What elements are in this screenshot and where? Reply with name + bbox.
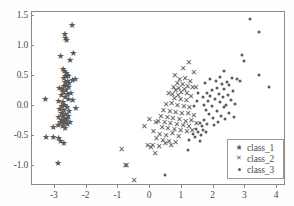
data-point-class_3 bbox=[199, 139, 202, 142]
data-point-class_1: ★ bbox=[66, 56, 74, 65]
data-point-class_3 bbox=[201, 96, 204, 99]
x-tick-mark bbox=[276, 185, 277, 188]
dot-marker-icon bbox=[231, 168, 247, 171]
y-tick-label: 1.0 bbox=[17, 40, 28, 50]
data-point-class_3 bbox=[209, 78, 212, 81]
data-point-class_3 bbox=[257, 31, 260, 34]
y-tick-label: -1.0 bbox=[14, 160, 28, 170]
data-point-class_3 bbox=[215, 109, 218, 112]
data-point-class_3 bbox=[203, 103, 206, 106]
data-point-class_3 bbox=[218, 76, 221, 79]
data-point-class_3 bbox=[231, 77, 234, 80]
scatter-plot-figure: ★★★★★★★★★★★★★★★★★★★★★★★★★★★★★★★★★★★★★★★★… bbox=[0, 0, 294, 206]
data-point-class_3 bbox=[221, 96, 224, 99]
data-point-class_3 bbox=[232, 115, 235, 118]
star-marker-icon: ★ bbox=[231, 144, 247, 152]
legend-label: class_3 bbox=[247, 165, 274, 175]
data-point-class_3 bbox=[208, 95, 211, 98]
data-point-class_3 bbox=[224, 118, 227, 121]
y-tick-label: 0.5 bbox=[17, 70, 28, 80]
data-point-class_1: ★ bbox=[54, 158, 62, 167]
data-point-class_3 bbox=[200, 125, 203, 128]
legend-item-class_3: class_3 bbox=[231, 164, 280, 175]
data-point-class_3 bbox=[203, 119, 206, 122]
data-point-class_3 bbox=[238, 79, 241, 82]
data-point-class_3 bbox=[240, 54, 243, 57]
data-point-class_3 bbox=[204, 131, 207, 134]
x-marker-icon: ✕ bbox=[231, 155, 247, 162]
data-point-class_3 bbox=[248, 18, 251, 21]
x-tick-mark bbox=[149, 185, 150, 188]
data-point-class_3 bbox=[164, 174, 167, 177]
x-tick-label: -3 bbox=[50, 190, 58, 200]
data-point-class_1: ★ bbox=[60, 139, 68, 148]
y-tick-label: -0.5 bbox=[14, 130, 28, 140]
data-point-class_3 bbox=[196, 100, 199, 103]
data-point-class_2: ✕ bbox=[131, 177, 138, 185]
dot-glyph bbox=[238, 168, 241, 171]
x-tick-mark bbox=[181, 185, 182, 188]
data-point-class_3 bbox=[206, 122, 209, 125]
x-tick-label: -1 bbox=[113, 190, 121, 200]
data-point-class_3 bbox=[211, 116, 214, 119]
x-tick-label: 3 bbox=[242, 190, 247, 200]
data-point-class_3 bbox=[243, 60, 246, 63]
data-point-class_3 bbox=[197, 91, 200, 94]
data-point-class_3 bbox=[216, 86, 219, 89]
x-tick-label: 0 bbox=[147, 190, 152, 200]
x-tick-label: 1 bbox=[178, 190, 183, 200]
legend-item-class_2: ✕class_2 bbox=[231, 153, 280, 164]
data-point-class_3 bbox=[217, 92, 220, 95]
x-tick-label: 2 bbox=[210, 190, 215, 200]
x-tick-label: 4 bbox=[274, 190, 279, 200]
x-tick-mark bbox=[213, 185, 214, 188]
data-point-class_3 bbox=[188, 138, 191, 141]
data-point-class_3 bbox=[192, 104, 195, 107]
data-point-class_2: ✕ bbox=[152, 150, 159, 158]
x-tick-mark bbox=[244, 185, 245, 188]
x-tick-label: -2 bbox=[82, 190, 90, 200]
data-point-class_3 bbox=[222, 106, 225, 109]
data-point-class_3 bbox=[213, 124, 216, 127]
data-point-class_3 bbox=[226, 94, 229, 97]
data-point-class_3 bbox=[214, 79, 217, 82]
data-point-class_1: ★ bbox=[61, 124, 69, 133]
data-point-class_3 bbox=[211, 89, 214, 92]
data-point-class_1: ★ bbox=[41, 94, 49, 103]
data-point-class_3 bbox=[258, 73, 261, 76]
data-point-class_3 bbox=[223, 88, 226, 91]
data-point-class_3 bbox=[204, 82, 207, 85]
data-point-class_3 bbox=[198, 121, 201, 124]
data-point-class_3 bbox=[208, 113, 211, 116]
data-point-class_3 bbox=[225, 103, 228, 106]
data-point-class_3 bbox=[210, 104, 213, 107]
x-tick-mark bbox=[86, 185, 87, 188]
data-point-class_1: ★ bbox=[57, 51, 65, 60]
x-tick-mark bbox=[117, 185, 118, 188]
y-tick-label: 0.0 bbox=[17, 100, 28, 110]
data-point-class_3 bbox=[218, 101, 221, 104]
data-point-class_3 bbox=[213, 97, 216, 100]
data-point-class_3 bbox=[233, 102, 236, 105]
legend-item-class_1: ★class_1 bbox=[231, 142, 280, 153]
data-point-class_3 bbox=[220, 83, 223, 86]
data-point-class_3 bbox=[194, 127, 197, 130]
data-point-class_2: ✕ bbox=[168, 142, 175, 150]
data-point-class_1: ★ bbox=[63, 35, 71, 44]
data-point-class_1: ★ bbox=[68, 20, 76, 29]
data-point-class_3 bbox=[217, 120, 220, 123]
data-point-class_3 bbox=[228, 84, 231, 87]
data-point-class_3 bbox=[230, 98, 233, 101]
data-point-class_3 bbox=[231, 90, 234, 93]
data-point-class_3 bbox=[227, 112, 230, 115]
legend-label: class_2 bbox=[247, 154, 274, 164]
data-point-class_3 bbox=[206, 100, 209, 103]
data-point-class_3 bbox=[191, 132, 194, 135]
data-point-class_3 bbox=[267, 86, 270, 89]
y-tick-label: 1.5 bbox=[17, 10, 28, 20]
data-point-class_3 bbox=[204, 108, 207, 111]
data-point-class_3 bbox=[225, 80, 228, 83]
data-point-class_3 bbox=[220, 114, 223, 117]
legend: ★class_1✕class_2class_3 bbox=[227, 139, 284, 179]
data-point-class_3 bbox=[187, 148, 190, 151]
